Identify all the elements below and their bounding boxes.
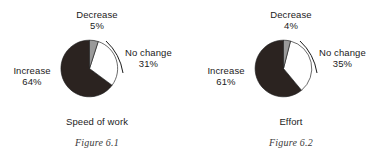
label-no-change: No change 35%	[319, 47, 366, 69]
label-increase: Increase 61%	[202, 65, 250, 87]
label-no-change: No change 31%	[125, 47, 172, 69]
chart-title: Effort	[194, 116, 388, 127]
pie-graphic	[254, 39, 313, 98]
figure-page: Decrease 5% No change 31% Increase 64% S…	[0, 0, 388, 163]
figure-caption: Figure 6.1	[0, 137, 194, 148]
label-decrease-value: 4%	[194, 20, 388, 31]
label-increase-name: Increase	[13, 65, 50, 76]
label-increase-value: 61%	[202, 76, 250, 87]
pie-svg	[60, 39, 119, 98]
label-decrease: Decrease 4%	[194, 9, 388, 31]
label-decrease-name: Decrease	[0, 9, 194, 20]
label-decrease-value: 5%	[0, 20, 194, 31]
pie-chart-effort: Decrease 4% No change 35% Increase 61% E…	[194, 0, 388, 163]
pie-svg	[254, 39, 313, 98]
figure-caption: Figure 6.2	[194, 137, 388, 148]
label-no-change-value: 35%	[319, 58, 366, 69]
label-no-change-name: No change	[319, 47, 366, 58]
label-increase-value: 64%	[8, 76, 56, 87]
pie-graphic	[60, 39, 119, 98]
chart-title: Speed of work	[0, 116, 194, 127]
label-increase: Increase 64%	[8, 65, 56, 87]
label-decrease: Decrease 5%	[0, 9, 194, 31]
label-no-change-name: No change	[125, 47, 172, 58]
label-no-change-value: 31%	[125, 58, 172, 69]
label-decrease-name: Decrease	[194, 9, 388, 20]
pie-chart-speed-of-work: Decrease 5% No change 31% Increase 64% S…	[0, 0, 194, 163]
label-increase-name: Increase	[207, 65, 244, 76]
